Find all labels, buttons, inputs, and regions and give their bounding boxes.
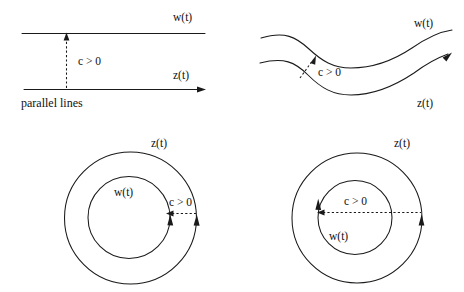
lower-line-arrowhead-icon xyxy=(197,86,206,92)
label-lower-curve-top-right: z(t) xyxy=(417,97,433,110)
panel-bottom-left: z(t) w(t) c > 0 xyxy=(65,137,200,284)
label-distance-bottom-left: c > 0 xyxy=(169,196,192,208)
outer-circle-arrowhead-icon-right xyxy=(419,214,425,225)
inner-circle-bottom-right xyxy=(318,181,392,255)
lower-wavy-curve xyxy=(260,54,448,95)
label-upper-curve-top-left: w(t) xyxy=(173,11,192,24)
label-distance-top-right: c > 0 xyxy=(318,66,341,78)
label-distance-bottom-right: c > 0 xyxy=(344,195,367,207)
figure-svg: w(t) z(t) c > 0 parallel lines w(t) z(t)… xyxy=(0,0,464,292)
panel-top-left: w(t) z(t) c > 0 parallel lines xyxy=(21,11,206,110)
outer-circle-bottom-right xyxy=(292,153,422,283)
label-outer-circle-bottom-right: z(t) xyxy=(394,137,410,150)
label-inner-circle-bottom-left: w(t) xyxy=(114,186,133,199)
label-outer-circle-bottom-left: z(t) xyxy=(151,137,167,150)
panel-bottom-right: z(t) w(t) c > 0 xyxy=(292,137,424,283)
label-inner-circle-bottom-right: w(t) xyxy=(329,230,348,243)
figure-canvas: w(t) z(t) c > 0 parallel lines w(t) z(t)… xyxy=(0,0,464,292)
label-distance-top-left: c > 0 xyxy=(78,55,101,67)
caption-parallel-lines: parallel lines xyxy=(21,96,83,110)
panel-top-right: w(t) z(t) c > 0 xyxy=(260,17,452,110)
label-upper-curve-top-right: w(t) xyxy=(414,17,433,30)
outer-circle-arrowhead-icon-left xyxy=(194,214,200,225)
outer-circle-bottom-left xyxy=(65,152,197,284)
label-lower-curve-top-left: z(t) xyxy=(173,69,189,82)
